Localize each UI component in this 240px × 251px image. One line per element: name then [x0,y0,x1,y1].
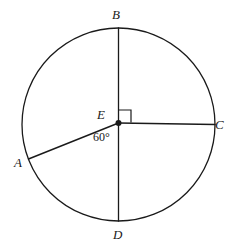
geometry-figure: B C D A E 60° [0,0,240,251]
point-label-c: C [215,118,224,131]
circle-diagram-canvas [0,0,240,251]
point-label-a: A [14,156,22,169]
radius-line-ec [119,123,216,125]
angle-label-aed: 60° [93,131,110,143]
center-point-dot [116,120,122,126]
point-label-b: B [112,8,120,21]
point-label-e: E [97,108,105,121]
point-label-d: D [113,228,122,241]
right-angle-marker-icon [119,110,132,123]
